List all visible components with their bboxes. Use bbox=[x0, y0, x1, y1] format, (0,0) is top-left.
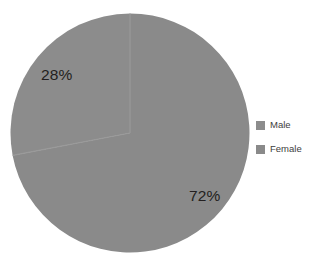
legend-item-female[interactable]: Female bbox=[256, 137, 318, 161]
pie-chart: 28% 72% Male Female bbox=[0, 0, 321, 268]
chart-legend: Male Female bbox=[256, 113, 318, 161]
pie-graphic bbox=[10, 13, 250, 253]
legend-item-male[interactable]: Male bbox=[256, 113, 318, 137]
pie-slice-male[interactable] bbox=[11, 14, 130, 156]
legend-swatch-male-icon bbox=[256, 121, 265, 130]
legend-swatch-female-icon bbox=[256, 145, 265, 154]
slice-value-label-male: 28% bbox=[41, 67, 72, 83]
legend-label-male: Male bbox=[270, 120, 291, 130]
pie-svg bbox=[10, 13, 250, 253]
legend-label-female: Female bbox=[270, 144, 302, 154]
slice-value-label-female: 72% bbox=[189, 188, 220, 204]
